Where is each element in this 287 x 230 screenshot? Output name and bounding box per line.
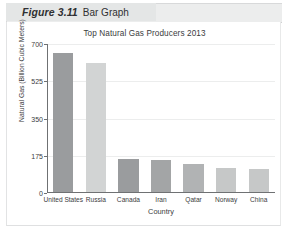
x-axis-tick-label: Canada (117, 196, 140, 203)
figure-caption: Figure 3.11Bar Graph (22, 4, 129, 20)
x-axis-tick-label: United States (43, 196, 83, 203)
x-axis-tick-label: Qatar (185, 196, 202, 203)
y-axis-tick-mark (44, 193, 47, 194)
y-axis-tick-label: 350 (31, 115, 43, 122)
y-axis-tick-label: 0 (39, 190, 43, 197)
x-axis-title: Country (47, 207, 275, 216)
x-axis-tick-label: China (250, 196, 267, 203)
chart-title: Top Natural Gas Producers 2013 (7, 29, 282, 38)
x-axis-tick-label: Norway (215, 196, 237, 203)
chart-container: Top Natural Gas Producers 2013 Natural G… (6, 22, 281, 226)
gridline (48, 44, 275, 45)
y-axis-tick-mark (44, 81, 47, 82)
gridline (48, 81, 275, 82)
plot-area: 0175350525700 United StatesRussiaCanadaI… (47, 44, 275, 193)
x-axis-tick-label: Russia (86, 196, 106, 203)
y-axis-tick-mark (44, 119, 47, 120)
figure-screenshot: Figure 3.11Bar Graph Top Natural Gas Pro… (0, 0, 287, 230)
bar (216, 168, 236, 192)
bar (183, 164, 203, 192)
y-axis-tick-label: 175 (31, 152, 43, 159)
bar (118, 159, 138, 192)
bar (151, 160, 171, 192)
y-axis-tick-label: 525 (31, 78, 43, 85)
figure-caption-label: Bar Graph (83, 7, 129, 18)
figure-number: Figure 3.11 (22, 6, 78, 18)
x-axis-line (47, 192, 275, 193)
gridline (48, 156, 275, 157)
x-axis-tick-label: Iran (155, 196, 166, 203)
bar (249, 169, 269, 192)
bar (53, 53, 73, 192)
y-axis-title: Natural Gas (Billion Cubic Meters) (18, 11, 25, 131)
y-axis-tick-mark (44, 44, 47, 45)
y-axis-tick-mark (44, 156, 47, 157)
gridline (48, 119, 275, 120)
y-axis-tick-label: 700 (31, 41, 43, 48)
bar (86, 63, 106, 192)
